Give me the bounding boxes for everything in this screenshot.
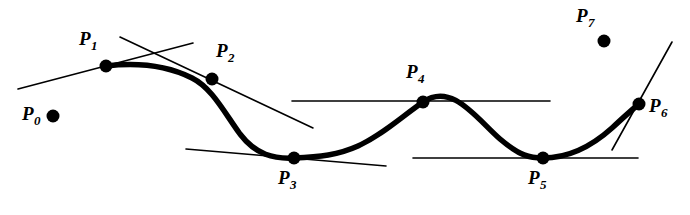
control-point-p1[interactable]	[100, 60, 113, 73]
point-label-p4: P4	[406, 62, 425, 85]
control-point-p6[interactable]	[633, 98, 646, 111]
point-label-p6: P6	[649, 96, 668, 119]
point-label-subscript: 5	[540, 177, 547, 192]
curve-group	[106, 65, 639, 159]
point-label-subscript: 7	[588, 15, 595, 30]
control-point-p7[interactable]	[598, 35, 611, 48]
spline-figure-canvas	[0, 0, 690, 215]
point-label-subscript: 0	[34, 113, 41, 128]
point-label-p5: P5	[528, 168, 547, 191]
tangent-lines-group	[18, 37, 672, 166]
point-label-subscript: 6	[661, 105, 668, 120]
point-label-letter: P	[406, 61, 418, 82]
point-label-p0: P0	[22, 104, 41, 127]
point-label-subscript: 2	[228, 50, 235, 65]
point-label-letter: P	[528, 167, 540, 188]
point-label-subscript: 4	[418, 71, 425, 86]
control-point-p5[interactable]	[537, 152, 550, 165]
control-points-group	[47, 35, 646, 165]
point-label-letter: P	[278, 167, 290, 188]
point-label-subscript: 3	[290, 177, 297, 192]
point-label-subscript: 1	[91, 38, 98, 53]
point-label-letter: P	[79, 28, 91, 49]
control-point-p2[interactable]	[206, 73, 219, 86]
point-label-p1: P1	[79, 29, 98, 52]
control-point-p4[interactable]	[417, 96, 430, 109]
spline-figure: P0P1P2P3P4P5P6P7	[0, 0, 690, 215]
control-point-p0[interactable]	[47, 110, 60, 123]
point-label-letter: P	[649, 95, 661, 116]
point-label-p7: P7	[576, 6, 595, 29]
control-point-p3[interactable]	[288, 152, 301, 165]
point-label-p2: P2	[216, 41, 235, 64]
point-label-letter: P	[22, 103, 34, 124]
point-label-letter: P	[216, 40, 228, 61]
spline-curve	[106, 65, 639, 159]
point-label-p3: P3	[278, 168, 297, 191]
point-label-letter: P	[576, 5, 588, 26]
